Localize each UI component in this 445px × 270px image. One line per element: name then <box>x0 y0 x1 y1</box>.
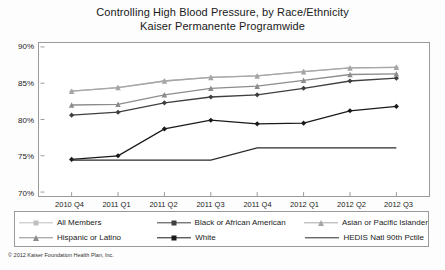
x-axis-tick-label: 2011 Q1 <box>102 200 130 209</box>
y-axis-tick-label: 90% <box>0 42 34 51</box>
data-point <box>301 86 306 91</box>
y-axis-tick-label: 80% <box>0 115 34 124</box>
legend-label: Asian or Pacific Islander <box>342 218 428 227</box>
data-point <box>301 121 306 126</box>
chart-title: Controlling High Blood Pressure, by Race… <box>0 6 445 34</box>
data-point <box>347 108 352 113</box>
legend-item: HEDIS Natl 90th Pctile <box>305 232 424 243</box>
x-axis-tick-label: 2011 Q3 <box>196 200 224 209</box>
legend-row-2: Hispanic or LatinoWhiteHEDIS Natl 90th P… <box>19 230 424 245</box>
legend-item: Asian or Pacific Islander <box>304 217 424 228</box>
legend-label: Black or African American <box>195 218 286 227</box>
data-point <box>347 78 352 83</box>
data-point <box>115 153 120 158</box>
legend-label: HEDIS Natl 90th Pctile <box>343 233 423 242</box>
data-point <box>115 110 120 115</box>
x-axis-tick-label: 2012 Q1 <box>290 200 319 209</box>
data-point <box>69 113 74 118</box>
data-point <box>208 118 213 123</box>
chart-page: Controlling High Blood Pressure, by Race… <box>0 0 445 270</box>
chart-svg <box>39 43 429 196</box>
legend-label: All Members <box>57 218 101 227</box>
data-point <box>208 94 213 99</box>
legend-item: Hispanic or Latino <box>19 232 157 243</box>
legend-item: All Members <box>19 217 157 228</box>
x-axis-tick-label: 2012 Q2 <box>337 200 366 209</box>
chart-plot-area <box>38 42 430 197</box>
legend-item: Black or African American <box>157 217 304 228</box>
legend-swatch <box>157 217 191 228</box>
chart-legend: All MembersBlack or African AmericanAsia… <box>14 211 429 247</box>
legend-label: White <box>195 233 215 242</box>
legend-swatch <box>157 232 191 243</box>
chart-title-line-2: Kaiser Permanente Programwide <box>0 20 445 34</box>
x-axis-tick-label: 2010 Q4 <box>55 200 84 209</box>
copyright-footer: © 2012 Kaiser Foundation Health Plan, In… <box>8 252 114 258</box>
x-axis-tick-label: 2011 Q4 <box>243 200 271 209</box>
data-point <box>69 157 74 162</box>
data-point <box>255 92 260 97</box>
legend-label: Hispanic or Latino <box>57 233 121 242</box>
legend-swatch <box>304 217 338 228</box>
legend-swatch <box>19 217 53 228</box>
y-axis-tick-label: 75% <box>0 152 34 161</box>
legend-swatch <box>19 232 53 243</box>
data-point <box>394 104 399 109</box>
y-axis-tick-label: 70% <box>0 189 34 198</box>
legend-item: White <box>157 232 305 243</box>
x-axis-tick-label: 2012 Q3 <box>384 200 413 209</box>
x-axis-tick-label: 2011 Q2 <box>149 200 177 209</box>
data-point <box>255 121 260 126</box>
legend-row-1: All MembersBlack or African AmericanAsia… <box>19 215 424 230</box>
chart-title-line-1: Controlling High Blood Pressure, by Race… <box>0 6 445 20</box>
y-axis-tick-label: 85% <box>0 78 34 87</box>
legend-swatch <box>305 232 339 243</box>
data-point <box>162 100 167 105</box>
